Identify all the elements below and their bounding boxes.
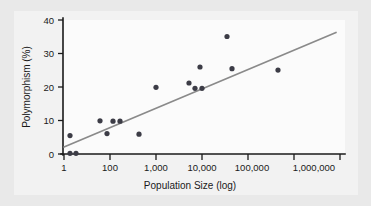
data-point [97, 118, 102, 123]
y-tick-label-20: 20 [43, 82, 54, 93]
data-point [197, 64, 202, 69]
data-point [186, 80, 191, 85]
data-point [192, 86, 197, 91]
figure-container: 0 10 20 30 40 Polymorphism (%) 1 [0, 0, 371, 206]
y-axis-tick-labels: 0 10 20 30 40 [43, 15, 54, 160]
y-tick-label-40: 40 [43, 15, 54, 26]
x-tick-label-10000: 10,000 [187, 162, 216, 173]
scatter-chart: 0 10 20 30 40 Polymorphism (%) 1 [0, 0, 371, 206]
y-tick-label-10: 10 [43, 115, 54, 126]
y-axis: 0 10 20 30 40 Polymorphism (%) [21, 15, 63, 160]
x-axis: 1 100 1,000 10,000 100,000 1,000,000 Pop… [61, 154, 345, 191]
data-point [224, 34, 229, 39]
data-point [67, 133, 72, 138]
data-point [153, 85, 158, 90]
y-tick-label-30: 30 [43, 48, 54, 59]
y-tick-label-0: 0 [49, 149, 54, 160]
data-point [199, 86, 204, 91]
data-point [73, 151, 78, 156]
x-tick-label-100000: 100,000 [235, 162, 269, 173]
data-point [110, 119, 115, 124]
x-axis-ticks [64, 154, 340, 160]
y-axis-title: Polymorphism (%) [21, 46, 32, 128]
x-tick-label-1: 1 [61, 162, 66, 173]
x-axis-title: Population Size (log) [144, 180, 236, 191]
x-tick-label-1000000: 1,000,000 [293, 162, 335, 173]
data-point [117, 119, 122, 124]
data-point [229, 66, 234, 71]
data-point [67, 151, 72, 156]
x-tick-label-1000: 1,000 [144, 162, 168, 173]
data-point [136, 132, 141, 137]
data-point [104, 131, 109, 136]
x-tick-label-100: 100 [102, 162, 118, 173]
x-axis-tick-labels: 1 100 1,000 10,000 100,000 1,000,000 [61, 162, 335, 173]
data-point [275, 68, 280, 73]
